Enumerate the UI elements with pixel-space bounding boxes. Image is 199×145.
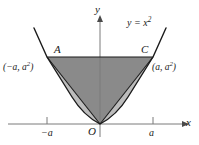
curve-equation-equals: = (131, 17, 143, 28)
x-tick-label-negative-a: −a (41, 128, 53, 138)
point-label-c: C (141, 44, 148, 55)
coord-left-x: −a (6, 62, 17, 72)
origin-label: O (88, 126, 96, 137)
y-axis-label: y (95, 4, 100, 15)
curve-equation-exponent: 2 (148, 16, 152, 24)
curve-equation-label: y = x2 (127, 17, 151, 28)
x-tick-label-positive-a: a (149, 128, 154, 138)
coord-right-close: ) (173, 62, 176, 72)
x-axis-label: x (186, 117, 191, 128)
coordinate-label-c: (a, a2) (152, 61, 176, 73)
point-label-a: A (54, 44, 61, 55)
y-axis-arrowhead (97, 15, 103, 22)
coordinate-label-a: (−a, a2) (3, 61, 33, 73)
coord-left-close: ) (30, 62, 33, 72)
